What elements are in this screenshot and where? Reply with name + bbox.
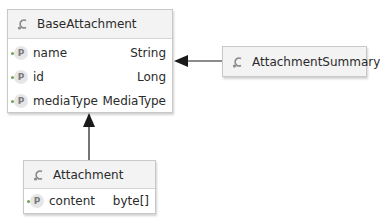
arrowhead-icon — [83, 113, 95, 127]
